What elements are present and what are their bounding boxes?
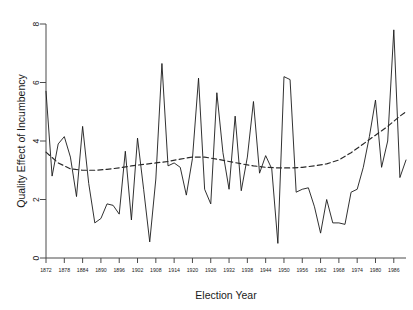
x-tick-label-1878: 1878 — [59, 267, 71, 273]
x-tick-label-1980: 1980 — [370, 267, 382, 273]
chart-container: 02468 1872187818841890189619021908191419… — [0, 0, 413, 310]
x-tick-label-1896: 1896 — [113, 267, 125, 273]
x-tick-label-1872: 1872 — [40, 267, 52, 273]
x-tick-label-1956: 1956 — [296, 267, 308, 273]
x-tick-label-1926: 1926 — [205, 267, 217, 273]
x-tick-label-1968: 1968 — [333, 267, 345, 273]
x-tick-label-1944: 1944 — [260, 267, 272, 273]
chart-background — [0, 0, 413, 310]
x-tick-label-1920: 1920 — [187, 267, 199, 273]
x-tick-label-1932: 1932 — [223, 267, 235, 273]
x-tick-label-1890: 1890 — [95, 267, 107, 273]
y-tick-label-0: 0 — [31, 255, 41, 260]
y-tick-label-2: 2 — [31, 197, 41, 202]
y-tick-label-4: 4 — [31, 138, 41, 143]
x-tick-label-1974: 1974 — [351, 267, 363, 273]
incumbency-line-chart: 02468 1872187818841890189619021908191419… — [0, 0, 413, 310]
y-tick-label-8: 8 — [31, 21, 41, 26]
x-tick-label-1938: 1938 — [242, 267, 254, 273]
x-tick-label-1950: 1950 — [278, 267, 290, 273]
x-tick-label-1914: 1914 — [168, 267, 180, 273]
y-tick-label-6: 6 — [31, 80, 41, 85]
x-tick-label-1884: 1884 — [77, 267, 89, 273]
x-tick-label-1962: 1962 — [315, 267, 327, 273]
x-tick-label-1986: 1986 — [388, 267, 400, 273]
x-tick-label-1902: 1902 — [132, 267, 144, 273]
x-axis-title: Election Year — [195, 289, 257, 301]
x-tick-label-1908: 1908 — [150, 267, 162, 273]
y-axis-title: Quality Effect of Incumbency — [15, 74, 27, 208]
